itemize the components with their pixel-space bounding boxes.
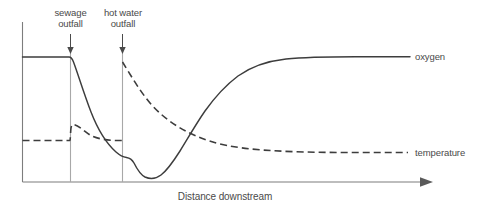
legend-label-temperature: temperature xyxy=(415,147,465,158)
x-axis-label: Distance downstream xyxy=(178,191,272,202)
sewage-outfall-label-line2: outfall xyxy=(58,18,83,29)
sewage-outfall-label-line1: sewage xyxy=(54,7,86,18)
legend-label-oxygen: oxygen xyxy=(415,51,445,62)
chart-background xyxy=(0,0,477,210)
hot-water-outfall-label-line1: hot water xyxy=(104,7,142,18)
hot-water-outfall-label-line2: outfall xyxy=(111,18,136,29)
river-pollution-line-chart: sewage outfall hot water outfall oxygen … xyxy=(0,0,477,210)
chart-figure: sewage outfall hot water outfall oxygen … xyxy=(0,0,477,210)
